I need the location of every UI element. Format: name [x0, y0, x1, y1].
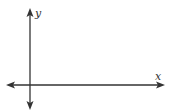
y-axis-label: y — [34, 7, 42, 20]
coordinate-plane: y x — [0, 0, 172, 112]
y-axis — [27, 8, 34, 110]
x-axis-label: x — [155, 70, 162, 83]
